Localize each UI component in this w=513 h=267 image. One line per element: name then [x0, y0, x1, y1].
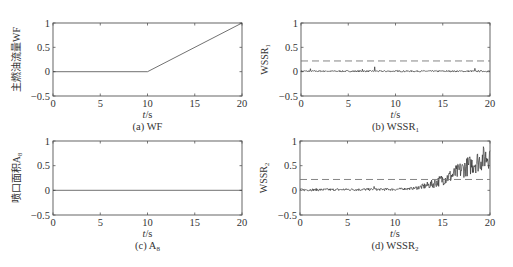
x-tick-label: 5 — [346, 98, 351, 109]
y-tick-label: 1 — [45, 18, 50, 29]
y-axis-label: 主燃油流量WF — [10, 27, 22, 92]
y-tick-label: 0 — [292, 185, 297, 196]
x-axis-label: t/s — [143, 109, 153, 120]
plot-frame — [53, 23, 242, 96]
y-tick-label: 0.5 — [285, 42, 298, 53]
panel-caption: (a) WF — [133, 121, 163, 133]
x-tick-label: 15 — [437, 217, 448, 228]
panel-caption: (c) A8 — [135, 240, 160, 253]
plot-frame — [301, 23, 490, 96]
x-tick-label: 20 — [237, 217, 248, 228]
x-axis-label: t/s — [390, 228, 400, 239]
data-series-line — [300, 147, 490, 191]
x-tick-label: 10 — [142, 98, 153, 109]
y-tick-label: −0.5 — [279, 91, 298, 102]
y-axis-label: WSSR2 — [258, 163, 270, 193]
y-tick-label: 0 — [45, 185, 50, 196]
y-axis-label: WSSR1 — [259, 44, 271, 74]
x-tick-label: 0 — [297, 217, 302, 228]
panel-a8: 05101520−0.500.51t/s(c) A8喷口面积A8 — [11, 136, 247, 254]
y-tick-label: 1 — [293, 18, 298, 29]
y-tick-label: −0.5 — [31, 91, 50, 102]
data-series-line — [301, 67, 490, 72]
x-tick-label: 10 — [142, 217, 153, 228]
x-axis-label: t/s — [391, 109, 401, 120]
x-tick-label: 15 — [190, 217, 201, 228]
x-tick-label: 20 — [485, 98, 496, 109]
x-tick-label: 10 — [390, 98, 401, 109]
figure: 05101520−0.500.51t/s(a) WF主燃油流量WF 051015… — [0, 0, 513, 267]
y-tick-label: −0.5 — [278, 210, 297, 221]
x-axis-label: t/s — [143, 228, 153, 239]
x-tick-label: 0 — [50, 217, 55, 228]
x-tick-label: 20 — [237, 98, 248, 109]
y-tick-label: 0.5 — [284, 160, 297, 171]
y-tick-label: 0 — [45, 66, 50, 77]
y-tick-label: −0.5 — [31, 210, 50, 221]
y-tick-label: 0.5 — [37, 160, 50, 171]
x-tick-label: 10 — [390, 217, 401, 228]
x-tick-label: 0 — [298, 98, 303, 109]
x-tick-label: 0 — [50, 98, 55, 109]
plot-frame — [300, 141, 490, 215]
x-tick-label: 5 — [98, 98, 103, 109]
panel-wssr1: 05101520−0.500.51t/s(b) WSSR1WSSR1 — [259, 18, 495, 135]
x-tick-label: 5 — [345, 217, 350, 228]
panel-caption: (b) WSSR1 — [372, 121, 419, 134]
y-tick-label: 0.5 — [37, 42, 50, 53]
x-tick-label: 15 — [438, 98, 449, 109]
plot-frame — [53, 141, 242, 215]
x-tick-label: 15 — [190, 98, 201, 109]
panel-caption: (d) WSSR2 — [372, 240, 419, 253]
x-tick-label: 5 — [98, 217, 103, 228]
y-tick-label: 1 — [292, 136, 297, 147]
panel-wssr2: 05101520−0.500.51t/s(d) WSSR2WSSR2 — [258, 136, 495, 254]
data-series-line — [53, 23, 242, 72]
y-tick-label: 0 — [293, 66, 298, 77]
x-tick-label: 20 — [485, 217, 496, 228]
y-axis-label: 喷口面积A8 — [11, 153, 23, 203]
panel-wf: 05101520−0.500.51t/s(a) WF主燃油流量WF — [10, 18, 247, 134]
y-tick-label: 1 — [45, 136, 50, 147]
